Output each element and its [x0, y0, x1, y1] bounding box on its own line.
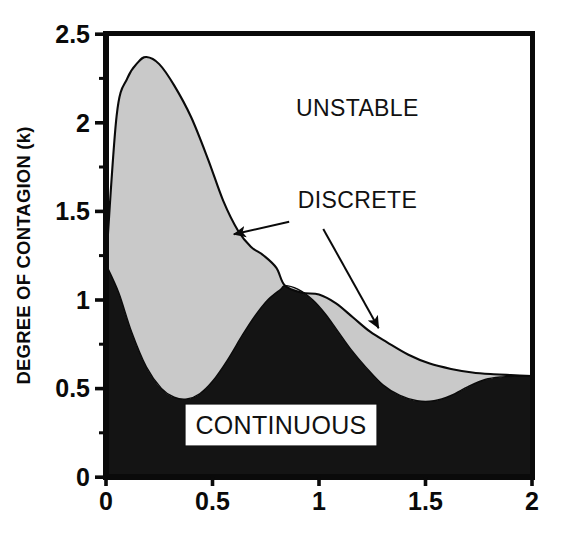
x-major-tick — [211, 477, 215, 486]
discrete-label: DISCRETE — [298, 187, 418, 213]
y-minor-tick — [99, 343, 106, 346]
figure-container: 2.521.510.5000.511.52DEGREE OF CONTAGION… — [0, 0, 561, 535]
x-major-tick — [104, 477, 108, 486]
y-minor-tick — [99, 77, 106, 80]
y-minor-tick — [99, 431, 106, 434]
unstable-label: UNSTABLE — [296, 95, 419, 121]
y-tick-labels: 2.521.510.50 — [55, 20, 90, 491]
x-tick-label: 1 — [312, 487, 326, 515]
x-tick-labels: 00.511.52 — [99, 487, 539, 515]
continuous-label: CONTINUOUS — [195, 411, 366, 439]
y-tick-label: 0 — [76, 463, 90, 491]
x-tick-label: 2 — [525, 487, 539, 515]
y-minor-tick — [99, 166, 106, 169]
x-major-tick — [424, 477, 428, 486]
y-tick-label: 2.5 — [55, 20, 90, 48]
y-tick-label: 1.5 — [55, 197, 90, 225]
right-spine — [530, 31, 535, 480]
x-tick-label: 0.5 — [195, 487, 230, 515]
x-major-tick — [317, 477, 321, 486]
y-tick-label: 0.5 — [55, 374, 90, 402]
y-major-tick — [95, 298, 106, 302]
continuous-label-group: CONTINUOUS — [185, 404, 377, 446]
x-tick-label: 0 — [99, 487, 113, 515]
y-tick-label: 1 — [76, 286, 90, 314]
y-tick-label: 2 — [76, 109, 90, 137]
x-major-tick — [530, 477, 534, 486]
y-minor-tick — [99, 254, 106, 257]
y-major-tick — [95, 32, 106, 36]
y-major-tick — [95, 210, 106, 214]
y-major-tick — [95, 121, 106, 125]
y-axis-title: DEGREE OF CONTAGION (k) — [13, 126, 34, 384]
y-major-tick — [95, 387, 106, 391]
x-tick-label: 1.5 — [408, 487, 443, 515]
top-spine — [103, 31, 535, 36]
